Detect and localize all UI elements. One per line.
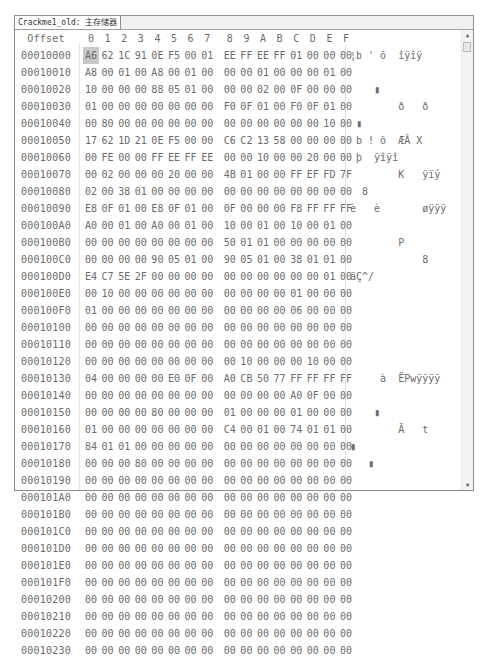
hex-byte[interactable]: 00 [255,625,271,642]
hex-byte[interactable]: 00 [222,64,238,81]
hex-byte[interactable]: 01 [116,200,132,217]
hex-byte[interactable]: 00 [321,557,337,574]
hex-byte[interactable]: 00 [116,285,132,302]
hex-byte[interactable]: 00 [166,540,182,557]
hex-byte[interactable]: 91 [133,47,149,64]
hex-byte[interactable]: 00 [272,149,288,166]
offset-cell[interactable]: 000101B0 [17,506,75,523]
hex-byte[interactable]: 00 [100,506,116,523]
hex-byte[interactable]: 00 [199,370,215,387]
hex-byte[interactable]: 00 [149,115,165,132]
ascii-cell[interactable]: P [350,234,462,251]
hex-byte[interactable]: 00 [321,132,337,149]
hex-byte[interactable]: 00 [166,319,182,336]
hex-byte[interactable]: 00 [183,47,199,64]
hex-byte[interactable]: 00 [338,302,354,319]
ascii-cell[interactable]: ▮ [350,115,462,132]
hex-byte[interactable]: FF [288,370,304,387]
hex-byte[interactable]: 00 [222,302,238,319]
hex-byte[interactable]: 1D [116,132,132,149]
hex-byte[interactable]: 00 [305,183,321,200]
hex-byte[interactable]: 00 [238,404,254,421]
hex-byte[interactable]: 00 [305,523,321,540]
hex-byte[interactable]: 00 [83,472,99,489]
hex-grid[interactable]: Offset0123456789ABCDEF00010000A6621C910E… [15,30,462,490]
hex-byte[interactable]: 01 [255,217,271,234]
hex-byte[interactable]: 00 [272,387,288,404]
hex-byte[interactable]: 00 [100,81,116,98]
hex-byte[interactable]: 00 [305,302,321,319]
hex-byte[interactable]: 00 [183,642,199,658]
hex-byte[interactable]: 00 [255,404,271,421]
hex-byte[interactable]: 00 [272,319,288,336]
hex-byte[interactable]: 00 [183,285,199,302]
hex-byte[interactable]: 00 [321,353,337,370]
hex-byte[interactable]: 00 [166,302,182,319]
hex-byte[interactable]: 00 [321,234,337,251]
hex-byte[interactable]: 00 [305,319,321,336]
hex-byte[interactable]: 00 [305,540,321,557]
hex-byte[interactable]: 00 [116,302,132,319]
hex-byte[interactable]: 00 [100,608,116,625]
hex-byte[interactable]: 90 [222,251,238,268]
hex-byte[interactable]: 0E [149,47,165,64]
hex-byte[interactable]: 17 [83,132,99,149]
hex-byte[interactable]: F5 [166,47,182,64]
hex-byte[interactable]: 00 [255,506,271,523]
hex-byte[interactable]: 00 [100,489,116,506]
hex-byte[interactable]: 00 [199,557,215,574]
hex-byte[interactable]: 00 [272,302,288,319]
offset-cell[interactable]: 000101C0 [17,523,75,540]
hex-byte[interactable]: 00 [116,608,132,625]
hex-byte[interactable]: 00 [183,438,199,455]
hex-byte[interactable]: 00 [166,336,182,353]
hex-byte[interactable]: 00 [272,200,288,217]
hex-byte[interactable]: 00 [199,115,215,132]
hex-byte[interactable]: 00 [183,183,199,200]
hex-byte[interactable]: 01 [321,268,337,285]
hex-byte[interactable]: 00 [288,149,304,166]
hex-byte[interactable]: F5 [166,132,182,149]
hex-byte[interactable]: 00 [288,523,304,540]
offset-cell[interactable]: 00010080 [17,183,75,200]
hex-byte[interactable]: 00 [166,625,182,642]
hex-byte[interactable]: FF [238,47,254,64]
hex-byte[interactable]: 00 [83,591,99,608]
hex-byte[interactable]: 01 [321,421,337,438]
hex-byte[interactable]: FF [149,149,165,166]
hex-byte[interactable]: 02 [83,183,99,200]
hex-byte[interactable]: 00 [83,625,99,642]
hex-byte[interactable]: 00 [272,642,288,658]
hex-byte[interactable]: 00 [199,183,215,200]
hex-byte[interactable]: 00 [83,540,99,557]
hex-byte[interactable]: 00 [183,336,199,353]
hex-byte[interactable]: 00 [100,98,116,115]
hex-byte[interactable]: 00 [116,506,132,523]
hex-byte[interactable]: 00 [288,353,304,370]
offset-cell[interactable]: 00010120 [17,353,75,370]
hex-byte[interactable]: 01 [288,404,304,421]
hex-byte[interactable]: C2 [238,132,254,149]
hex-byte[interactable]: 01 [183,217,199,234]
hex-byte[interactable]: 01 [83,98,99,115]
hex-byte[interactable]: 00 [238,438,254,455]
hex-byte[interactable]: 00 [100,319,116,336]
hex-byte[interactable]: 00 [288,608,304,625]
hex-byte[interactable]: A6 [83,47,99,64]
hex-byte[interactable]: EE [222,47,238,64]
hex-byte[interactable]: 77 [272,370,288,387]
hex-byte[interactable]: 00 [199,574,215,591]
offset-cell[interactable]: 00010160 [17,421,75,438]
hex-byte[interactable]: 02 [100,166,116,183]
hex-byte[interactable]: 00 [272,217,288,234]
hex-byte[interactable]: 00 [272,183,288,200]
hex-byte[interactable]: 00 [255,489,271,506]
hex-byte[interactable]: 00 [272,489,288,506]
hex-byte[interactable]: 00 [272,421,288,438]
hex-byte[interactable]: 5E [116,268,132,285]
hex-byte[interactable]: 00 [338,387,354,404]
hex-byte[interactable]: 00 [83,404,99,421]
hex-byte[interactable]: 00 [338,523,354,540]
hex-byte[interactable]: 00 [238,591,254,608]
hex-byte[interactable]: 00 [222,540,238,557]
